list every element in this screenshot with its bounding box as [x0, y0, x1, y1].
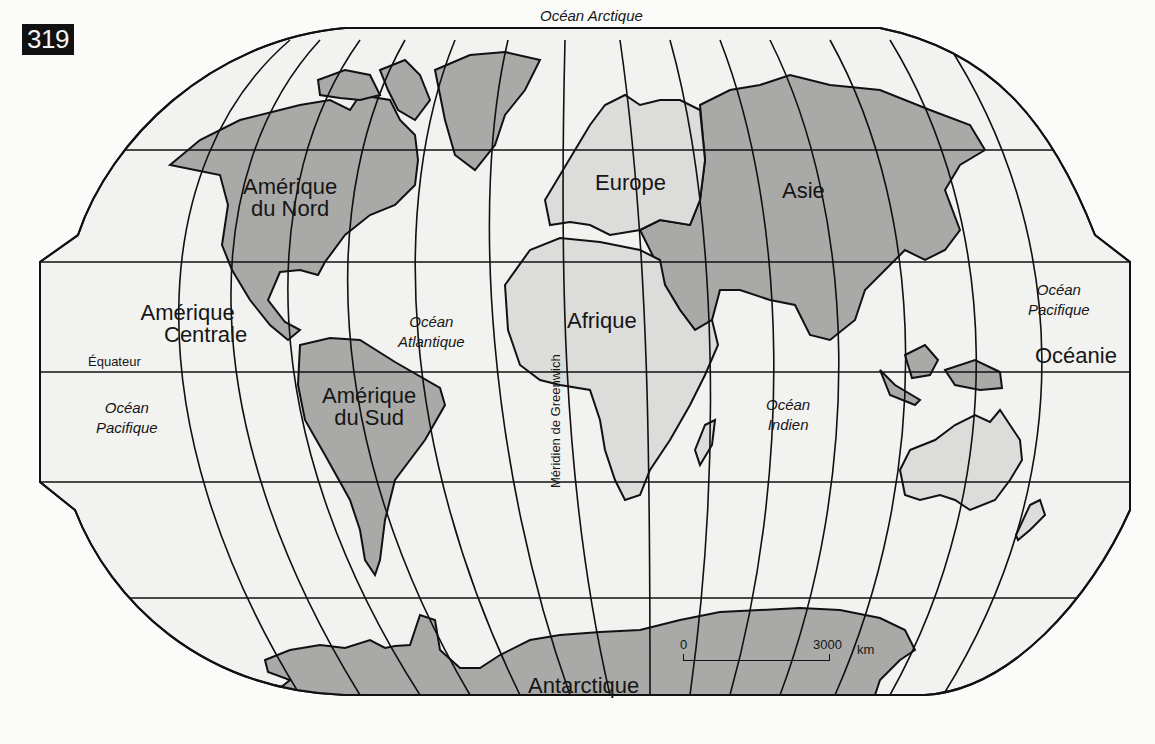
scale-bar — [683, 654, 830, 661]
label-pacific-west-line2: Pacifique — [96, 418, 158, 438]
world-map — [0, 0, 1155, 744]
label-indian-line1: Océan — [766, 395, 810, 415]
label-equator: Équateur — [88, 355, 141, 368]
label-arctic-ocean: Océan Arctique — [540, 6, 643, 26]
label-north-america-line2: du Nord — [243, 198, 337, 220]
label-central-america: Amérique Centrale — [128, 302, 247, 347]
label-pacific-east-line2: Pacifique — [1028, 300, 1090, 320]
label-pacific-west-line1: Océan — [96, 398, 158, 418]
label-south-america-line1: Amérique — [322, 385, 416, 407]
label-europe: Europe — [595, 172, 666, 194]
label-indian-line2: Indien — [766, 415, 810, 435]
label-south-america-line2: du Sud — [322, 407, 416, 429]
label-greenwich-meridian: Méridien de Greenwich — [549, 354, 562, 488]
label-atlantic-line1: Océan — [398, 312, 465, 332]
scale-start-label: 0 — [680, 638, 687, 651]
label-pacific-east-line1: Océan — [1028, 280, 1090, 300]
scale-end-label: 3000 — [813, 638, 842, 651]
label-atlantic-ocean: Océan Atlantique — [398, 312, 465, 353]
label-central-america-line2: Centrale — [128, 324, 247, 346]
label-pacific-ocean-west: Océan Pacifique — [96, 398, 158, 439]
label-oceania: Océanie — [1035, 345, 1117, 367]
label-north-america: Amérique du Nord — [243, 176, 337, 221]
label-pacific-ocean-east: Océan Pacifique — [1028, 280, 1090, 321]
label-africa: Afrique — [567, 310, 637, 332]
label-north-america-line1: Amérique — [243, 176, 337, 198]
figure-number-badge: 319 — [22, 24, 74, 55]
label-antarctica: Antarctique — [528, 675, 639, 697]
label-south-america: Amérique du Sud — [322, 385, 416, 430]
label-atlantic-line2: Atlantique — [398, 332, 465, 352]
label-central-america-line1: Amérique — [128, 302, 247, 324]
scale-unit-label: km — [857, 643, 874, 656]
label-indian-ocean: Océan Indien — [766, 395, 810, 436]
label-asia: Asie — [782, 180, 825, 202]
